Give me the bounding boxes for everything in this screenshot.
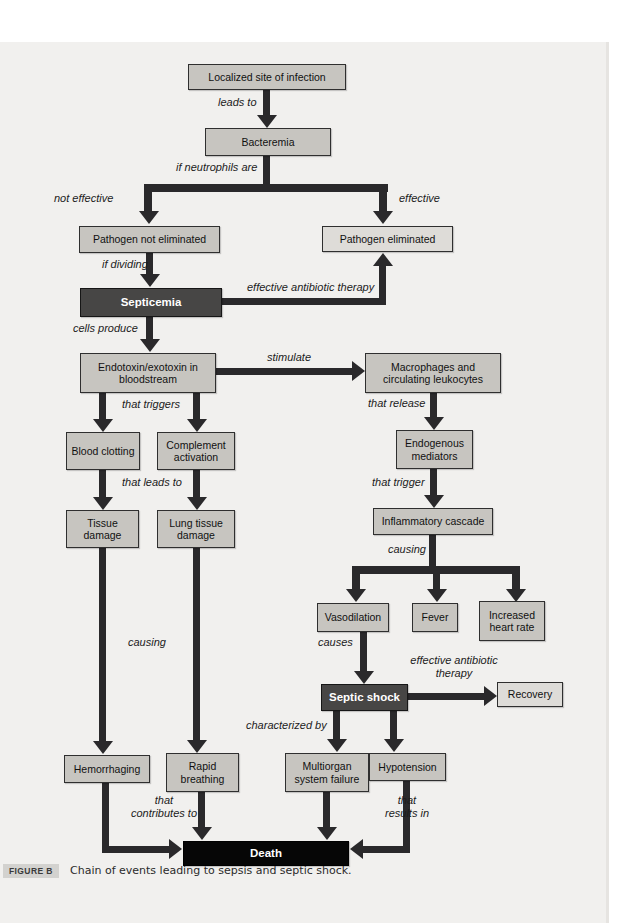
arrow-bloodclotting-to-tissue [99,469,106,498]
node-blood-clotting: Blood clotting [66,432,140,470]
node-endogenous-mediators: Endogenous mediators [396,430,473,469]
arrowhead-endotoxin-to-complement [187,419,207,432]
node-lung-tissue-damage-label: Lung tissue damage [161,517,231,541]
node-recovery: Recovery [497,682,563,707]
arrow-endotoxin-to-bloodclotting [99,391,106,420]
arrow-neutrophil-branch-bar [144,184,388,192]
arrow-branch-right [379,184,387,212]
arrowhead-hemorrhaging-to-death [169,839,182,859]
node-macrophages-label: Macrophages and circulating leukocytes [369,361,497,385]
node-localized-infection-label: Localized site of infection [208,71,325,83]
node-septicemia-label: Septicemia [121,296,182,309]
arrow-to-heartrate [512,566,520,590]
arrow-septicshock-to-hypotension [390,710,397,740]
arrow-septicshock-to-multiorgan [333,710,340,740]
arrow-endotoxin-to-complement [193,391,200,420]
node-bacteremia-label: Bacteremia [241,136,294,148]
arrow-septicemia-to-endotoxin [146,315,153,340]
arrow-to-vasodilation [352,566,360,590]
node-pathogen-not-eliminated-label: Pathogen not eliminated [93,233,206,245]
edge-label-that-triggers: that triggers [122,398,180,411]
node-lung-tissue-damage: Lung tissue damage [157,510,235,548]
node-vasodilation-label: Vasodilation [325,611,381,623]
arrowhead-branch-right [373,211,393,224]
arrowhead-localized-to-bacteremia [257,115,277,128]
arrowhead-bloodclotting-to-tissue [93,497,113,510]
arrow-to-fever [433,566,440,590]
node-death-label: Death [250,847,282,860]
edge-label-cells-produce: cells produce [73,322,138,335]
edge-label-effective-antibiotic-1: effective antibiotic therapy [247,281,374,294]
node-death: Death [183,841,349,866]
arrowhead-branch-left [139,211,159,224]
node-recovery-label: Recovery [508,688,552,700]
arrow-endotoxin-to-macrophages [214,368,353,375]
arrowhead-hypotension-to-death [350,839,363,859]
arrowhead-to-vasodilation [346,589,366,602]
arrowhead-macrophages-to-endogenous [424,417,444,430]
arrow-hemorrhaging-to-death-h [102,846,170,853]
node-hemorrhaging: Hemorrhaging [64,755,150,783]
arrowhead-lung-to-rapidbreathing [187,740,207,753]
arrow-vasodilation-to-septicshock [360,631,367,672]
arrowhead-rapidbreathing-to-death [192,827,212,840]
node-endotoxin-label: Endotoxin/exotoxin in bloodstream [84,361,212,385]
edge-label-effective-antibiotic-2: effective antibiotic therapy [408,654,500,679]
node-endotoxin: Endotoxin/exotoxin in bloodstream [80,353,216,393]
node-rapid-breathing: Rapid breathing [166,753,239,792]
arrowhead-endogenous-to-inflammatory [424,495,444,508]
arrow-macrophages-to-endogenous [430,391,437,418]
arrow-complement-to-lung [193,469,200,498]
edge-label-causes: causes [318,636,353,649]
node-macrophages: Macrophages and circulating leukocytes [365,353,501,393]
node-multiorgan-failure: Multiorgan system failure [285,753,369,792]
node-hemorrhaging-label: Hemorrhaging [74,763,141,775]
node-blood-clotting-label: Blood clotting [71,445,134,457]
node-fever: Fever [412,603,458,632]
node-hypotension: Hypotension [369,753,446,781]
arrowhead-endotoxin-to-macrophages [352,361,365,381]
edge-label-effective: effective [399,192,440,205]
node-increased-heart-rate-label: Increased heart rate [483,609,541,633]
node-septic-shock-label: Septic shock [329,691,400,704]
arrowhead-tissue-to-hemorrhaging [93,741,113,754]
figure-caption: Chain of events leading to sepsis and se… [70,864,352,877]
edge-label-not-effective: not effective [54,192,113,205]
node-increased-heart-rate: Increased heart rate [479,601,545,641]
arrow-localized-to-bacteremia [263,88,270,116]
node-inflammatory-cascade: Inflammatory cascade [373,508,493,535]
arrow-endogenous-to-inflammatory [430,467,437,496]
node-bacteremia: Bacteremia [205,128,331,156]
edge-label-stimulate: stimulate [267,351,311,364]
node-inflammatory-cascade-label: Inflammatory cascade [382,515,485,527]
arrow-inflammatory-stem [429,533,436,570]
edge-label-that-contributes: that contributes to [128,794,200,819]
figure-badge: FIGURE B [3,864,59,878]
arrow-lung-to-rapidbreathing [193,547,200,741]
node-complement-activation: Complement activation [157,432,235,470]
arrowhead-septicshock-to-multiorgan [327,739,347,752]
arrow-tissue-to-hemorrhaging [99,547,106,742]
arrow-multiorgan-to-death [323,790,330,828]
flowchart-canvas: Localized site of infection Bacteremia P… [0,0,620,923]
node-pathogen-not-eliminated: Pathogen not eliminated [79,226,220,253]
edge-label-if-neutrophils: if neutrophils are [176,161,257,174]
edge-label-causing-left: causing [128,636,166,649]
arrowhead-septicemia-to-endotoxin [140,339,160,352]
node-vasodilation: Vasodilation [317,603,389,632]
edge-label-characterized-by: characterized by [246,719,327,732]
edge-label-leads-to: leads to [218,96,257,109]
node-multiorgan-failure-label: Multiorgan system failure [289,760,365,784]
edge-label-causing-right: causing [388,543,426,556]
edge-label-that-leads-to: that leads to [122,476,182,489]
arrow-septicemia-to-eliminated-h [217,298,383,305]
edge-label-if-dividing: if dividing [102,258,148,271]
node-rapid-breathing-label: Rapid breathing [170,760,235,784]
arrowhead-vasodilation-to-septicshock [354,671,374,684]
node-endogenous-mediators-label: Endogenous mediators [400,437,469,461]
arrowhead-notEliminated-to-septicemia [140,274,160,287]
node-localized-infection: Localized site of infection [188,64,346,90]
node-tissue-damage-label: Tissue damage [70,517,135,541]
arrowhead-to-fever [427,589,447,602]
arrowhead-endotoxin-to-bloodclotting [93,419,113,432]
